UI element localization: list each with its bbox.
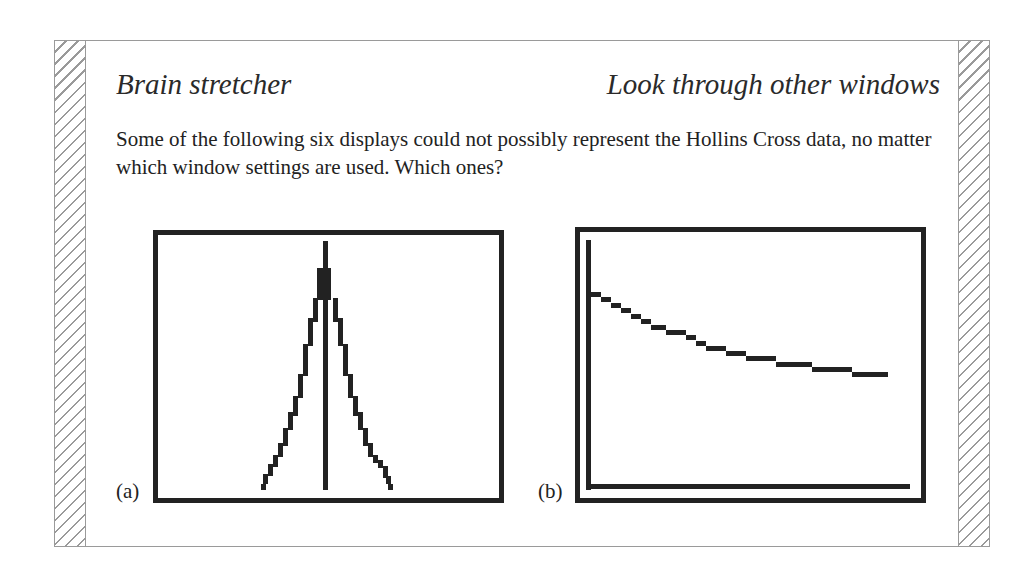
display-b-plot (0, 0, 1034, 569)
